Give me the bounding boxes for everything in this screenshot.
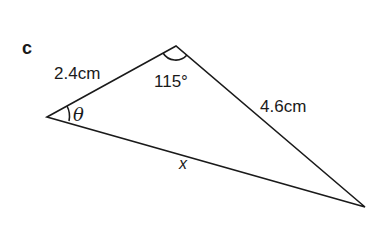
side-label-left-top: 2.4cm (54, 65, 100, 82)
triangle-diagram: c 2.4cm 115° 4.6cm θ x (0, 0, 387, 245)
angle-arc-left (67, 106, 70, 121)
angle-label-top: 115° (154, 73, 188, 90)
side-label-x: x (179, 156, 187, 172)
side-label-top-right: 4.6cm (260, 98, 306, 115)
angle-label-theta: θ (73, 106, 84, 124)
triangle-figure (0, 0, 387, 245)
angle-arc-top (163, 53, 187, 60)
part-label: c (22, 39, 32, 57)
